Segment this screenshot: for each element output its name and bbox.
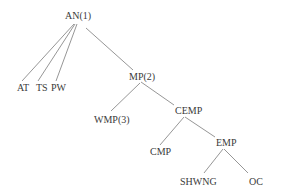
node-emp: EMP — [216, 137, 237, 148]
edge-cemp-cmp — [160, 117, 184, 145]
node-wmp: WMP(3) — [94, 114, 130, 126]
edge-an-mp — [86, 28, 133, 70]
edge-an-ts — [38, 24, 75, 81]
node-cemp: CEMP — [175, 105, 203, 116]
tree-diagram: AN(1) AT TS PW MP(2) WMP(3) CEMP CMP EMP… — [0, 0, 282, 195]
edge-mp-cemp — [141, 82, 174, 105]
edge-emp-oc — [224, 149, 248, 173]
node-mp: MP(2) — [129, 71, 155, 83]
labels-group: AN(1) AT TS PW MP(2) WMP(3) CEMP CMP EMP… — [17, 10, 263, 187]
node-an: AN(1) — [65, 10, 91, 22]
node-pw: PW — [51, 82, 67, 93]
edges-group — [22, 24, 248, 173]
node-ts: TS — [36, 82, 48, 93]
edge-emp-shwng — [204, 149, 223, 173]
node-shwng: SHWNG — [180, 176, 217, 187]
node-at: AT — [17, 82, 29, 93]
node-oc: OC — [249, 176, 263, 187]
edge-cemp-emp — [185, 117, 215, 137]
edge-mp-wmp — [111, 83, 140, 111]
node-cmp: CMP — [150, 146, 172, 157]
tree-diagram-canvas: AN(1) AT TS PW MP(2) WMP(3) CEMP CMP EMP… — [0, 0, 282, 195]
